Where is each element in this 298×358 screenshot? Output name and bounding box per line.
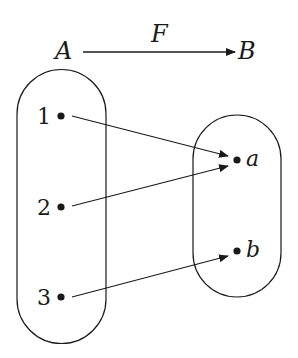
element-2-dot xyxy=(57,203,64,210)
arrow-2-to-a xyxy=(72,166,228,206)
element-a-label: a xyxy=(246,146,259,171)
function-label: F xyxy=(150,20,169,48)
element-2-label: 2 xyxy=(37,195,51,220)
set-a-label: A xyxy=(53,37,72,65)
element-b-dot xyxy=(233,247,240,254)
set-b-label: B xyxy=(237,37,256,65)
element-3-dot xyxy=(57,293,64,300)
set-b-oval xyxy=(193,115,281,297)
element-1-label: 1 xyxy=(37,104,51,129)
element-b-label: b xyxy=(246,237,260,262)
element-3-label: 3 xyxy=(37,285,51,310)
element-1-dot xyxy=(57,112,64,119)
mapping-diagram: A F B 1 2 3 a b xyxy=(0,0,298,358)
element-a-dot xyxy=(233,156,240,163)
arrow-3-to-b xyxy=(72,256,228,297)
arrow-1-to-a xyxy=(72,116,228,156)
